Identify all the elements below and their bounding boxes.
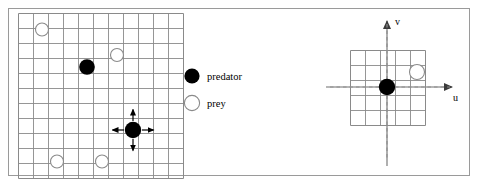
prey-marker [96, 155, 109, 168]
prey-marker [410, 65, 425, 80]
prey-marker [51, 155, 64, 168]
legend-prey-label: prey [207, 98, 226, 109]
v-axis-label: v [395, 16, 400, 27]
predator-marker [79, 59, 95, 75]
figure-canvas: predator prey v u [0, 0, 481, 185]
legend-predator-label: predator [207, 71, 242, 82]
predator-marker-selected [125, 122, 141, 138]
prey-marker [36, 23, 49, 36]
legend-predator-icon [184, 68, 199, 83]
figure-root: predator prey v u [0, 0, 481, 185]
u-axis-label: u [453, 92, 458, 103]
legend-prey-icon [184, 95, 199, 110]
figure-border [9, 9, 470, 176]
predator-marker [379, 79, 395, 95]
prey-marker [111, 49, 124, 62]
